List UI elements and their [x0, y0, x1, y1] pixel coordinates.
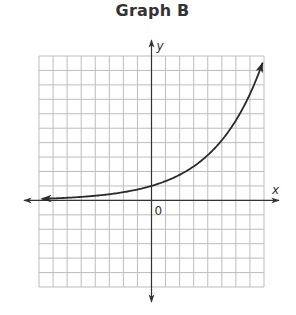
origin-label: 0 — [155, 204, 163, 218]
x-axis-label: x — [271, 183, 280, 197]
graph-plot-area: x y 0 — [0, 0, 296, 315]
y-axis-label: y — [156, 39, 165, 53]
exponential-curve — [42, 63, 263, 199]
